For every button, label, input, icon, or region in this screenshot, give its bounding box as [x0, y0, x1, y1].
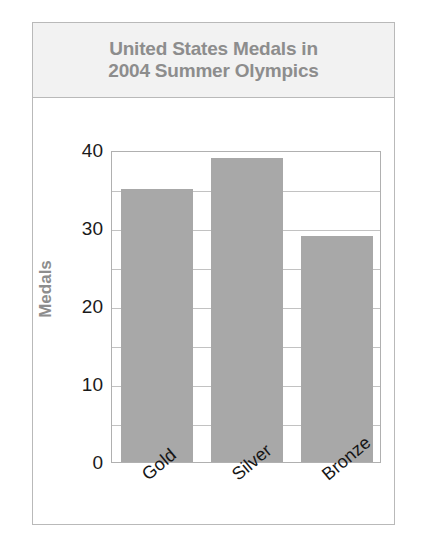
chart-body: Medals 010203040 GoldSilverBronze: [33, 99, 394, 525]
y-axis-tick-label: 0: [59, 452, 103, 474]
y-axis-title-label: Medals: [36, 260, 56, 318]
y-axis-tick-labels: 010203040: [59, 99, 107, 465]
page-title: United States Medals in 2004 Summer Olym…: [94, 38, 332, 83]
bars-layer: [112, 152, 380, 462]
x-axis-category-labels: GoldSilverBronze: [111, 465, 381, 525]
chart-figure-frame: United States Medals in 2004 Summer Olym…: [32, 22, 395, 525]
y-axis-tick-label: 20: [59, 296, 103, 318]
y-axis-tick-label: 10: [59, 374, 103, 396]
y-axis-tick-label: 40: [59, 140, 103, 162]
y-axis-tick-label: 30: [59, 218, 103, 240]
chart-title-line-2: 2004 Summer Olympics: [108, 60, 318, 82]
plot-area: [111, 151, 381, 463]
bar-silver: [211, 158, 283, 462]
chart-title-line-1: United States Medals in: [108, 38, 318, 60]
y-axis-title: Medals: [35, 229, 57, 349]
bar-bronze: [301, 236, 373, 462]
chart-title-band: United States Medals in 2004 Summer Olym…: [33, 23, 394, 98]
bar-gold: [121, 189, 193, 462]
